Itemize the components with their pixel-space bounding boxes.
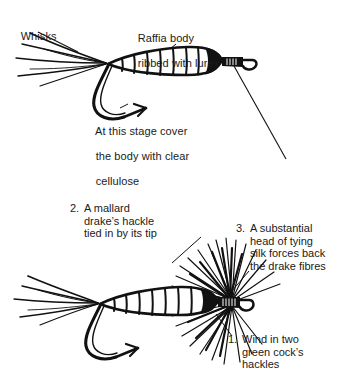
leader-step2	[172, 237, 201, 263]
whisks-fibres-2	[14, 276, 98, 325]
hook-bend-2	[86, 306, 138, 359]
label-step-1-line3: hackles	[242, 358, 279, 370]
leader-cellulose	[120, 104, 128, 108]
label-step-3-line3: silk forces back	[250, 247, 325, 259]
diagram-page: Whisks Raffia body ribbed with lurex At …	[0, 0, 354, 386]
label-cellulose-line1: At this stage cover	[95, 125, 187, 137]
label-step-3: 3. A substantialhead of tyingsilk forces…	[236, 222, 354, 272]
label-cellulose-line3: cellulose	[96, 175, 140, 187]
label-step-2-line3: tied in by its tip	[84, 227, 157, 239]
label-whisks: Whisks	[8, 17, 57, 55]
label-step-3-line2: head of tying	[250, 235, 313, 247]
label-step-2-line1: A mallard	[84, 202, 130, 214]
label-step-3-line4: the drake fibres	[250, 260, 326, 272]
label-step-3-line1: A substantial	[250, 222, 312, 234]
label-cellulose-line2: the body with clear	[96, 150, 190, 162]
label-raffia-line1: Raffia body	[138, 32, 195, 44]
label-raffia-body: Raffia body ribbed with lurex	[125, 19, 219, 82]
tying-silk-thread	[234, 66, 286, 159]
label-step-3-number: 3.	[236, 222, 245, 235]
label-step-1-body: Wind in twogreen cock’shackles	[228, 333, 348, 371]
label-cellulose-note: At this stage cover the body with clear …	[83, 112, 189, 200]
label-step-2-body: A mallarddrake’s hackletied in by its ti…	[70, 202, 200, 240]
head-and-eye	[222, 57, 256, 69]
label-step-1-line2: green cock’s	[242, 346, 304, 358]
label-whisks-text: Whisks	[21, 30, 57, 42]
label-step-2: 2. A mallarddrake’s hackletied in by its…	[70, 202, 200, 240]
label-step-2-number: 2.	[70, 202, 79, 215]
label-step-1: 1. Wind in twogreen cock’shackles	[228, 333, 348, 371]
label-step-1-line1: Wind in two	[242, 333, 299, 345]
raffia-body-2	[100, 287, 218, 315]
label-raffia-line2: ribbed with lurex	[138, 57, 220, 69]
label-step-3-body: A substantialhead of tyingsilk forces ba…	[236, 222, 354, 272]
label-step-1-number: 1.	[228, 333, 237, 346]
label-step-2-line2: drake’s hackle	[84, 215, 154, 227]
